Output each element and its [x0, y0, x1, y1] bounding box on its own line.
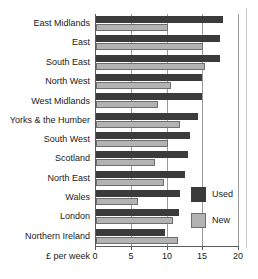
bar-new	[96, 101, 158, 108]
bar-new	[96, 179, 164, 186]
bar-used	[96, 209, 179, 216]
x-tick-mark-10	[167, 246, 168, 250]
category-label: Wales	[0, 192, 90, 202]
x-tick-mark-15	[202, 246, 203, 250]
category-label: Northern Ireland	[0, 231, 90, 241]
bar-new	[96, 237, 178, 244]
right-border	[246, 8, 247, 248]
category-label: North West	[0, 76, 90, 86]
bar-used	[96, 190, 180, 197]
bar-used	[96, 229, 165, 236]
legend-label-new: New	[212, 215, 230, 226]
bar-used	[96, 35, 220, 42]
x-tick-mark-5	[131, 246, 132, 250]
bar-used	[96, 93, 202, 100]
category-label: West Midlands	[0, 96, 90, 106]
bar-chart: 05101520 £ per week East MidlandsEastSou…	[0, 0, 258, 279]
legend-label-used: Used	[212, 189, 233, 200]
category-label: Scotland	[0, 153, 90, 163]
legend-swatch-new-icon	[191, 213, 206, 228]
bar-used	[96, 55, 220, 62]
bar-new	[96, 82, 171, 89]
bar-used	[96, 151, 188, 158]
bar-new	[96, 140, 168, 147]
bar-used	[96, 74, 202, 81]
bar-new	[96, 24, 168, 31]
category-label: North East	[0, 173, 90, 183]
x-tick-label-10: 10	[157, 251, 177, 262]
x-tick-label-5: 5	[121, 251, 141, 262]
bar-used	[96, 132, 190, 139]
category-label: South West	[0, 134, 90, 144]
legend-swatch-used-icon	[191, 187, 206, 202]
x-tick-mark-20	[238, 246, 239, 250]
bar-used	[96, 171, 185, 178]
x-tick-label-15: 15	[192, 251, 212, 262]
bar-new	[96, 121, 180, 128]
x-axis-title: £ per week	[26, 251, 90, 262]
bar-new	[96, 159, 155, 166]
bar-new	[96, 43, 203, 50]
category-label: East	[0, 37, 90, 47]
x-tick-label-20: 20	[228, 251, 248, 262]
gridline-20	[238, 14, 239, 246]
category-label: East Midlands	[0, 18, 90, 28]
bar-new	[96, 63, 205, 70]
x-tick-mark-0	[95, 246, 96, 250]
bar-used	[96, 113, 198, 120]
category-label: London	[0, 211, 90, 221]
bar-used	[96, 16, 223, 23]
bar-new	[96, 217, 173, 224]
bar-new	[96, 198, 138, 205]
category-label: Yorks & the Humber	[0, 115, 90, 125]
category-label: South East	[0, 57, 90, 67]
